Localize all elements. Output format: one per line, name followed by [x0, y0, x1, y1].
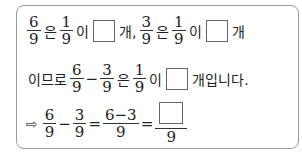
- fraction: 39: [100, 62, 114, 95]
- line-2: 이므로 69 − 39 은 19 이 개입니다.: [26, 62, 251, 95]
- answer-box-1[interactable]: [93, 20, 115, 42]
- answer-box-4[interactable]: [159, 102, 183, 124]
- fraction: 39: [73, 107, 87, 140]
- answer-box-3[interactable]: [166, 68, 188, 90]
- fraction: 19: [172, 14, 186, 47]
- line-3: ⇨ 69 − 39 = 6−39 = 9: [26, 102, 188, 145]
- arrow-icon: ⇨: [26, 116, 38, 132]
- answer-box-2[interactable]: [206, 20, 228, 42]
- fraction: 39: [140, 14, 154, 47]
- fraction: 19: [60, 14, 74, 47]
- fraction: 69: [27, 14, 41, 47]
- fraction: 19: [133, 62, 147, 95]
- fraction: 6−39: [103, 107, 139, 140]
- fraction: 69: [70, 62, 84, 95]
- fraction: 9: [155, 102, 187, 145]
- line-1: 69 은 19 이 개, 39 은 19 이 개: [26, 14, 247, 47]
- fraction: 69: [43, 107, 57, 140]
